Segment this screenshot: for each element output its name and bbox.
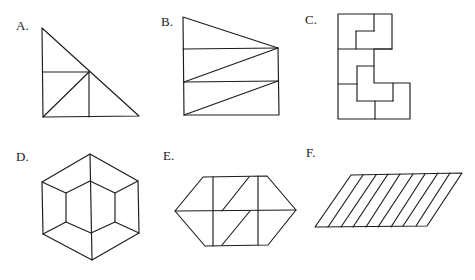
figure-e <box>175 176 296 246</box>
figure-e-segment-4 <box>222 211 250 245</box>
figure-d <box>42 154 139 260</box>
figure-b-segment-2 <box>184 48 278 82</box>
figure-b <box>183 17 279 115</box>
figure-e-segment-3 <box>222 177 249 211</box>
figure-e-label: E. <box>163 149 174 162</box>
figure-d-segment-4 <box>42 182 66 193</box>
figure-b-segment-0 <box>183 48 278 49</box>
figure-f <box>315 173 462 227</box>
figure-d-segment-3 <box>43 222 66 234</box>
figure-d-label: D. <box>16 150 29 163</box>
figures-svg <box>0 0 475 280</box>
figure-b-label: B. <box>161 15 173 28</box>
figure-c-label: C. <box>305 13 317 26</box>
figure-d-segment-1 <box>115 181 138 193</box>
figure-a-segment-2 <box>43 72 89 117</box>
figure-b-outline-0 <box>183 17 279 115</box>
figure-e-segment-0 <box>175 210 296 211</box>
figure-f-label: F. <box>306 146 315 159</box>
figure-f-outline-0 <box>315 173 462 227</box>
figure-a-label: A. <box>16 19 29 32</box>
figure-d-segment-2 <box>115 222 139 233</box>
figure-a <box>42 28 139 117</box>
figure-d-segment-0 <box>90 154 92 260</box>
figure-b-segment-3 <box>184 81 278 115</box>
figure-c <box>338 14 410 119</box>
figure-b-segment-1 <box>184 81 278 82</box>
